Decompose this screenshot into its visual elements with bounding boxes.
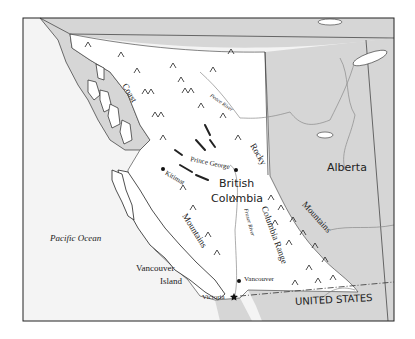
vancouver-island-label-2: Island [160, 277, 182, 286]
vancouver-label: Vancouver [244, 276, 274, 283]
kitimat-dot [161, 167, 165, 171]
alberta-label: Alberta [327, 162, 367, 173]
province-label-line1: British [219, 178, 254, 189]
lesser-slave-lake [317, 132, 333, 138]
vancouver-island-label-1: Vancouver [136, 264, 174, 273]
province-label-line2: Columbia [211, 193, 263, 204]
vancouver-dot [237, 279, 241, 283]
pacific-ocean-label: Pacific Ocean [50, 234, 101, 243]
victoria-label: Victoria [202, 294, 225, 301]
prince-george-dot [234, 168, 238, 172]
lake-athabasca [318, 19, 342, 25]
